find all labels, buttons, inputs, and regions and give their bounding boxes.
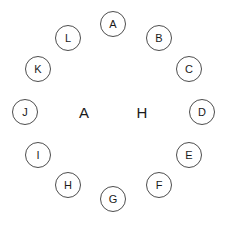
center-label-left: A [79,105,89,120]
node-label: H [64,180,72,191]
node-circle[interactable]: E [176,142,202,168]
node-circle[interactable]: B [146,25,172,51]
node-label: C [185,64,193,75]
circle-diagram-canvas: A B C D E F G H I J K L A H [0,0,229,226]
node-circle[interactable]: A [100,11,126,37]
node-circle[interactable]: I [25,142,51,168]
node-circle[interactable]: F [146,172,172,198]
node-label: K [34,64,41,75]
node-circle[interactable]: K [25,56,51,82]
node-label: E [185,150,192,161]
node-circle[interactable]: C [176,56,202,82]
node-label: B [155,33,162,44]
node-circle[interactable]: D [189,99,215,125]
node-label: J [22,107,28,118]
node-label: L [65,33,71,44]
node-circle[interactable]: J [12,99,38,125]
node-circle[interactable]: L [55,25,81,51]
node-label: G [109,194,118,205]
node-label: D [198,107,206,118]
node-label: A [109,19,116,30]
node-circle[interactable]: H [55,172,81,198]
node-label: I [36,150,39,161]
center-label-right: H [137,105,148,120]
node-circle[interactable]: G [100,186,126,212]
node-label: F [156,180,163,191]
